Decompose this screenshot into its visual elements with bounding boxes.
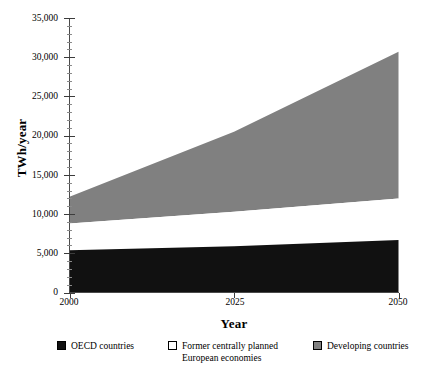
black-swatch-icon bbox=[57, 341, 66, 350]
white-swatch-icon bbox=[168, 341, 177, 350]
area-developing-countries bbox=[70, 52, 399, 224]
legend-item-former-centrally-planned: Former centrally plannedEuropean economi… bbox=[168, 341, 278, 364]
legend-label-oecd-countries: OECD countries bbox=[71, 341, 134, 353]
area-series-group bbox=[70, 52, 399, 293]
legend-label-line1: Former centrally planned bbox=[182, 341, 278, 351]
legend-label-former-centrally-planned: Former centrally plannedEuropean economi… bbox=[182, 341, 278, 364]
legend-label-line2: European economies bbox=[182, 353, 278, 365]
legend-item-developing-countries: Developing countries bbox=[313, 341, 409, 353]
gray-swatch-icon bbox=[313, 341, 322, 350]
legend-label-developing-countries: Developing countries bbox=[327, 341, 409, 353]
x-axis-ticks bbox=[71, 293, 400, 298]
chart-legend: OECD countries Former centrally plannedE… bbox=[0, 337, 429, 373]
stacked-area-chart-figure: TWh/year 35,000 30,000 25,000 20,000 15,… bbox=[0, 0, 429, 377]
plot-area bbox=[0, 0, 429, 340]
legend-item-oecd-countries: OECD countries bbox=[57, 341, 134, 353]
